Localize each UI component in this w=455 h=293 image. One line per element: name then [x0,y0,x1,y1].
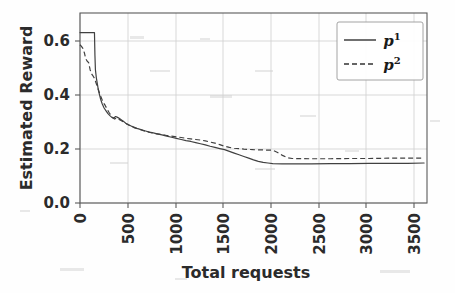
legend[interactable]: p1 p2 [337,22,423,80]
legend-entry-p1-base: p [383,32,394,50]
x-tick-label: 1000 [168,213,186,255]
x-tick-label: 500 [120,213,138,244]
legend-box [337,22,423,80]
legend-entry-p2-base: p [383,56,394,74]
x-tick-label: 2500 [311,213,329,255]
x-tick-label: 2000 [263,213,281,255]
y-tick-label: 0.2 [43,140,70,158]
x-tick-label: 1500 [215,213,233,255]
figure-canvas: 0.6 0.4 0.2 0.0 0 500 1000 1500 2000 250… [0,0,455,293]
x-tick-label: 3000 [358,213,376,255]
y-tick-label: 0.0 [43,194,70,212]
y-tick-label: 0.4 [43,86,70,104]
x-axis-tick-labels: 0 500 1000 1500 2000 2500 3000 3500 [72,213,424,255]
x-tick-label: 0 [72,213,90,223]
y-axis-tick-labels: 0.6 0.4 0.2 0.0 [43,32,70,212]
legend-entry-p2-superscript: 2 [394,55,401,66]
x-tick-label: 3500 [406,213,424,255]
legend-entry-p1-superscript: 1 [394,31,401,42]
y-axis-title: Estimated Reward [17,26,36,191]
y-tick-label: 0.6 [43,32,70,50]
estimated-reward-line-chart: 0.6 0.4 0.2 0.0 0 500 1000 1500 2000 250… [0,0,455,293]
x-axis-title: Total requests [182,263,310,282]
